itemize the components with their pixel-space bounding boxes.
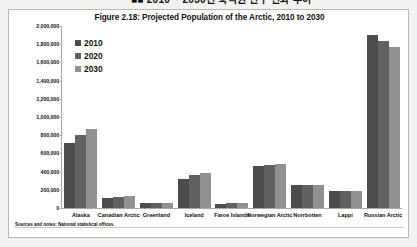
bar-group: Iceland [175,26,213,208]
bar-2030 [124,196,135,208]
bar-group-bars [213,26,251,208]
bar-2010 [102,198,113,208]
bar-2030 [162,203,173,208]
legend-item: 2010 [75,36,103,49]
bar-2020 [113,197,124,208]
y-axis-tick-label: 400,000 [41,169,59,175]
bar-2020 [151,203,162,208]
legend-item-label: 2020 [84,51,103,61]
page-title: Figure 2.18: Projected Population of the… [9,13,410,22]
y-axis-tick-mark [60,208,62,209]
bar-group: Russian Arctic [364,26,402,208]
bar-2030 [237,203,248,208]
bar-group: Norwegian Arctic [251,26,289,208]
y-axis-tick-label: 800,000 [41,132,59,138]
screenshot-root: ■■ 2010 ~ 2030년 북극권 인구 변화 추이 Figure 2.18… [0,0,417,247]
figure-card: Figure 2.18: Projected Population of the… [8,9,409,238]
legend-item-label: 2030 [84,64,103,74]
y-axis-tick-label: 2,000,000 [36,23,59,29]
bar-group-bars [289,26,327,208]
bar-group: Canadian Arctic [100,26,138,208]
legend-swatch-icon [75,53,81,59]
bar-group-bars [326,26,364,208]
bar-2030 [313,185,324,208]
top-caption-text: ■■ 2010 ~ 2030년 북극권 인구 변화 추이 [131,0,311,6]
bar-2020 [226,203,237,208]
y-axis-tick-label: 600,000 [41,150,59,156]
bar-2030 [275,164,286,208]
bar-2030 [86,129,97,208]
source-note: Sources and notes: National statistical … [15,222,114,227]
bar-2010 [253,166,264,208]
chart-plot-area: 2,000,0001,800,0001,600,0001,400,0001,20… [61,26,402,209]
bar-group-bars [175,26,213,208]
bar-2010 [140,203,151,208]
bar-2020 [264,165,275,208]
bar-group-bars [100,26,138,208]
y-axis-tick-label: 1,000,000 [36,114,59,120]
bar-2010 [64,143,75,208]
y-axis-tick-label: 200,000 [41,187,59,193]
bar-2030 [200,173,211,208]
bar-2030 [351,191,362,208]
bar-2010 [291,185,302,208]
y-axis-tick-label: 1,800,000 [36,41,59,47]
bar-group-bars [364,26,402,208]
chart-legend: 201020202030 [75,36,103,75]
legend-swatch-icon [75,66,81,72]
top-caption-strip: ■■ 2010 ~ 2030년 북극권 인구 변화 추이 [0,0,417,9]
bar-group-bars [251,26,289,208]
y-axis-tick-label: 1,400,000 [36,78,59,84]
bar-2010 [329,191,340,208]
bar-2020 [340,191,351,208]
bar-2020 [302,185,313,208]
legend-swatch-icon [75,40,81,46]
bar-2010 [215,204,226,208]
bar-group: Faroe Islands [213,26,251,208]
y-axis-tick-label: 1,600,000 [36,59,59,65]
bar-2010 [367,35,378,208]
bar-group-bars [138,26,176,208]
note-divider [15,227,404,228]
x-axis-category-label: Russian Arctic [360,212,406,220]
bar-2020 [189,175,200,208]
legend-item: 2030 [75,62,103,75]
legend-item: 2020 [75,49,103,62]
bar-2020 [75,135,86,208]
legend-item-label: 2010 [84,38,103,48]
bar-2030 [389,47,400,208]
bar-group: Greenland [138,26,176,208]
y-axis-tick-label: 0 [56,205,59,211]
y-axis-tick-label: 1,200,000 [36,96,59,102]
bar-2010 [178,179,189,208]
bar-group: Lappi [326,26,364,208]
bar-2020 [378,41,389,208]
bar-group: Norrbotten [289,26,327,208]
